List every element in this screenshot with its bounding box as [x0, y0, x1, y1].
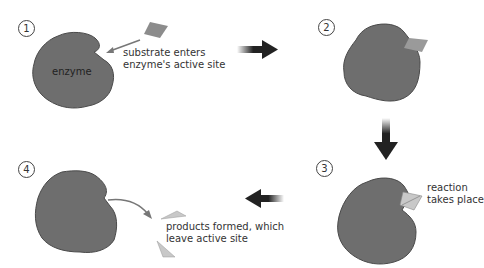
step-4-caption-line-2: leave active site	[166, 233, 284, 245]
step-1-caption-line-2: enzyme's active site	[123, 59, 225, 71]
flow-arrow-left	[245, 189, 284, 208]
flow-arrow-down	[374, 118, 398, 160]
enzyme-label: enzyme	[52, 66, 92, 77]
product-shape-1	[161, 211, 186, 219]
step-number-3: 3	[316, 160, 333, 177]
step-number-2: 2	[318, 19, 335, 36]
enzyme-shape-step-3	[338, 178, 416, 264]
step-number-1: 1	[18, 20, 35, 37]
step-3-caption: reaction takes place	[427, 182, 484, 206]
enzyme-shape-step-4	[35, 171, 116, 253]
step-number-4: 4	[18, 161, 35, 178]
step-1-caption-line-1: substrate enters	[123, 47, 225, 59]
step-3-caption-line-1: reaction	[427, 182, 484, 194]
enzyme-shape-step-2	[344, 24, 420, 101]
substrate-shape	[144, 22, 168, 38]
flow-arrow-right	[237, 40, 278, 59]
step-3-caption-line-2: takes place	[427, 194, 484, 206]
step-1-caption: substrate enters enzyme's active site	[123, 47, 225, 71]
step-4-caption-line-1: products formed, which	[166, 221, 284, 233]
step-4-caption: products formed, which leave active site	[166, 221, 284, 245]
